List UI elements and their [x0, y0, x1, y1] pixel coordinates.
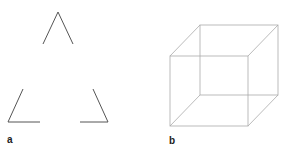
triangle-bottom-right-corner [80, 89, 108, 122]
illusory-triangle [8, 12, 108, 122]
panel-label-b: b [169, 135, 175, 146]
cube-front-face [170, 56, 248, 126]
triangle-bottom-left-corner [8, 89, 40, 122]
panel-label-a: a [7, 134, 13, 145]
necker-cube [170, 25, 278, 126]
cube-back-face [200, 25, 278, 95]
figure-canvas [0, 0, 282, 151]
triangle-top-corner [43, 12, 73, 44]
